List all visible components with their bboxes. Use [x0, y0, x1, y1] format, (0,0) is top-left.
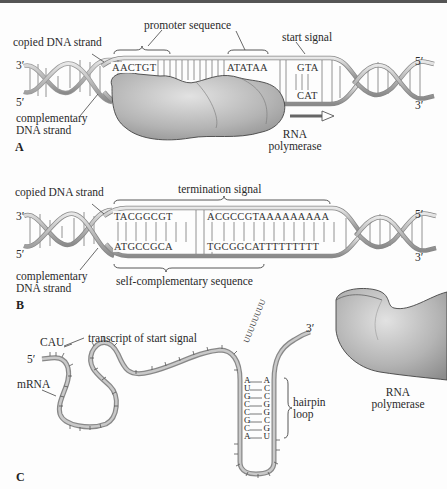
a-copied-strand-label: copied DNA strand	[13, 36, 102, 48]
b-seq-top-right: ACGCCGTAAAAAAAAA	[206, 211, 330, 222]
b-copied-strand-label: copied DNA strand	[15, 186, 104, 198]
b-complementary-label-1: complementary	[16, 270, 88, 282]
b-self-complementary-label: self-complementary sequence	[116, 275, 253, 287]
panel-a-label: A	[15, 140, 24, 155]
a-promoter-seq-1: AACTGT	[111, 62, 157, 73]
panel-b-dna	[24, 196, 436, 272]
diagram-canvas: copied DNA strand promoter sequence star…	[0, 0, 447, 489]
b-right-top-end: 5′	[415, 208, 423, 220]
a-promoter-label: promoter sequence	[144, 19, 231, 31]
a-right-top-end: 5′	[415, 55, 423, 67]
b-left-top-end: 3′	[16, 210, 24, 222]
panel-b-label: B	[16, 298, 24, 313]
a-polymerase-label-1: RNA	[260, 128, 330, 140]
base-left: A	[244, 432, 251, 440]
a-right-bottom-end: 3′	[415, 99, 423, 111]
b-termination-label: termination signal	[178, 183, 261, 195]
c-hairpin-label-1: hairpin	[293, 396, 326, 408]
hairpin-stem: AA UC GC CG CG GC CG AU	[244, 376, 270, 440]
a-start-seq-top: GTA	[296, 62, 320, 73]
a-promoter-seq-2: ATATAA	[226, 62, 269, 73]
b-right-bottom-end: 3′	[415, 251, 423, 263]
c-hairpin-label-2: loop	[293, 408, 313, 420]
a-complementary-label-2: DNA strand	[16, 124, 71, 136]
a-polymerase-label-2: polymerase	[260, 140, 330, 152]
c-transcript-label: transcript of start signal	[88, 332, 197, 344]
a-complementary-label-1: complementary	[16, 112, 88, 124]
b-seq-top-left: TACGGCGT	[113, 211, 174, 222]
b-seq-bottom-left: ATGCCGCA	[113, 241, 174, 252]
b-complementary-label-2: DNA strand	[16, 282, 71, 294]
a-start-signal-label: start signal	[282, 31, 332, 43]
base-pair: AU	[244, 432, 270, 440]
b-left-bottom-end: 5′	[16, 248, 24, 260]
panel-c-label: C	[16, 470, 25, 485]
c-polymerase-label-1: RNA	[362, 386, 434, 398]
c-five-prime: 5′	[27, 353, 35, 365]
a-start-seq-bottom: CAT	[296, 90, 319, 101]
c-mrna-label: mRNA	[17, 378, 50, 390]
c-polymerase-label-2: polymerase	[362, 398, 434, 410]
a-left-bottom-end: 5′	[16, 96, 24, 108]
a-left-top-end: 3′	[16, 59, 24, 71]
c-three-prime: 3′	[306, 322, 314, 334]
base-right: U	[264, 432, 271, 440]
c-cau-label: CAU	[40, 336, 64, 348]
b-seq-bottom-right: TGCGGCATTTTTTTTT	[206, 241, 320, 252]
